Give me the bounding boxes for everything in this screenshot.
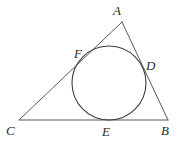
vertex-label-A: A (112, 3, 121, 18)
geometry-canvas: A C B F D E (0, 0, 181, 143)
vertex-label-B: B (161, 123, 169, 138)
tangent-label-F: F (73, 46, 83, 61)
vertex-label-C: C (6, 123, 15, 138)
tangent-label-D: D (145, 58, 156, 73)
tangent-label-E: E (101, 124, 110, 139)
geometry-diagram: A C B F D E (0, 0, 181, 143)
